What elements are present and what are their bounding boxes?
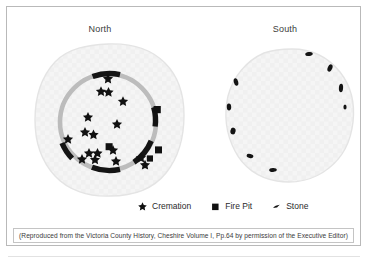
- stone-icon: [272, 202, 281, 211]
- star-icon: [138, 202, 147, 211]
- figure-root: North South: [0, 0, 373, 263]
- legend: Cremation Fire Pit Stone: [138, 198, 353, 214]
- caption-box: (Reproduced from the Victoria County His…: [13, 228, 354, 243]
- panel-title-north: North: [60, 24, 140, 34]
- legend-label-firepit: Fire Pit: [225, 201, 252, 211]
- legend-entry-firepit: Fire Pit: [211, 201, 252, 211]
- bottom-rule-divider: [8, 256, 360, 257]
- legend-label-stone: Stone: [286, 201, 308, 211]
- legend-entry-cremation: Cremation: [138, 201, 191, 211]
- panel-title-south: South: [245, 24, 325, 34]
- caption-text: (Reproduced from the Victoria County His…: [19, 232, 348, 239]
- square-icon: [211, 202, 220, 211]
- legend-label-cremation: Cremation: [152, 201, 191, 211]
- legend-entry-stone: Stone: [272, 201, 308, 211]
